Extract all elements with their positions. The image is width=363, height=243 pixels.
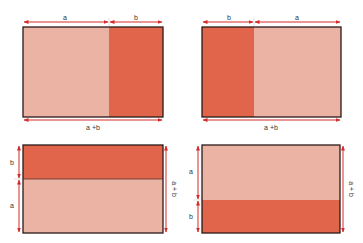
label-total: a + b <box>348 181 355 197</box>
label-b: b <box>134 14 138 21</box>
panel-bottom-right: a b a + b <box>189 145 355 233</box>
segment-a-light <box>23 179 163 233</box>
segment-b-dark <box>23 145 163 179</box>
segment-b-dark <box>109 27 163 117</box>
label-a: a <box>63 14 67 21</box>
segment-a-light <box>23 27 109 117</box>
segment-a-light <box>202 145 340 200</box>
segment-b-dark <box>202 27 254 117</box>
label-b: b <box>227 14 231 21</box>
label-b: b <box>10 159 14 166</box>
label-a: a <box>295 14 299 21</box>
segment-b-dark <box>202 200 340 233</box>
panel-top-right: b a a +b <box>202 14 341 131</box>
label-total: a +b <box>86 124 100 131</box>
panel-top-left: a b a +b <box>23 14 163 131</box>
label-total: a + b <box>171 181 178 197</box>
label-b: b <box>189 213 193 220</box>
label-a: a <box>189 168 193 175</box>
panel-bottom-left: b a a + b <box>10 145 178 233</box>
segment-a-light <box>254 27 341 117</box>
diagram-canvas: a b a +b b a a +b b a a + b <box>0 0 363 243</box>
label-total: a +b <box>264 124 278 131</box>
label-a: a <box>10 202 14 209</box>
